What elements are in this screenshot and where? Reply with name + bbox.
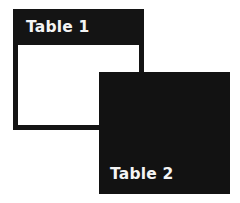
table-2-label: Table 2 — [110, 165, 174, 183]
table-1-header: Table 1 — [13, 9, 144, 45]
table-1-label: Table 1 — [26, 18, 90, 36]
table-2-box: Table 2 — [99, 72, 230, 194]
